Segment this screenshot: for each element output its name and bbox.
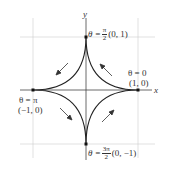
fraction: π2 [102, 27, 108, 42]
label-right-coord: (1, 0) [129, 79, 149, 88]
x-axis-label: x [154, 86, 158, 95]
point-right [137, 89, 140, 92]
cusp-points [32, 36, 140, 146]
astroid-curve [33, 37, 138, 144]
denominator: 2 [102, 35, 108, 42]
fraction: 3π2 [102, 146, 111, 161]
coord-text: (0, 1) [108, 29, 128, 39]
label-left-coord: (−1, 0) [18, 106, 43, 115]
direction-arrows [56, 63, 114, 122]
label-right-theta: θ = 0 [128, 69, 146, 78]
denominator: 2 [102, 154, 111, 161]
label-top: θ =π2(0, 1) [88, 27, 128, 42]
label-left-theta: θ = π [19, 96, 37, 105]
point-left [32, 89, 35, 92]
theta-text: θ = [88, 29, 101, 39]
label-bottom: θ =3π2(0, −1) [88, 146, 136, 161]
y-axis-label: y [83, 10, 87, 19]
theta-text: θ = [88, 148, 101, 158]
astroid-diagram: y x θ =π2(0, 1) θ = 0 (1, 0) θ = π (−1, … [0, 0, 169, 169]
coord-text: (0, −1) [112, 148, 137, 158]
